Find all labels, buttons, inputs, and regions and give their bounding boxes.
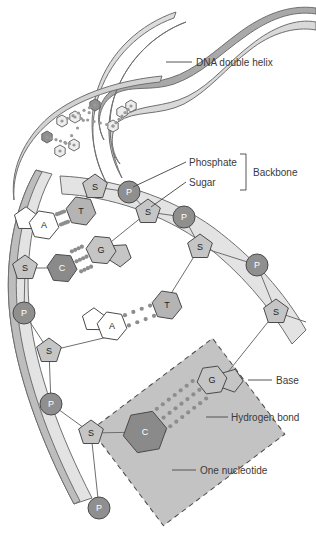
hydrogen-bond-dot	[161, 402, 165, 406]
label-backbone-text: Backbone	[253, 167, 298, 178]
helix-hydrogen-bond-dot	[82, 119, 85, 122]
hydrogen-bond-dot	[174, 420, 178, 424]
hydrogen-bond-dot	[123, 313, 127, 317]
dna-structure-diagram: ATCGATCGC SPSPSPSSPSPSP DNA double helix…	[0, 0, 316, 536]
sugar-unit-label: S	[273, 307, 279, 317]
hydrogen-bond-dot	[185, 384, 189, 388]
helix-hydrogen-bond-dot	[114, 121, 117, 124]
helix-hydrogen-bond-dot	[99, 121, 102, 124]
helix-hydrogen-bond-dot	[66, 117, 69, 120]
sugar-unit-label: S	[197, 242, 203, 252]
helix-hydrogen-bond-dot	[68, 142, 71, 145]
base-label-c: C	[59, 263, 66, 273]
helix-hydrogen-bond-dot	[72, 143, 75, 146]
helix-hydrogen-bond-dot	[117, 118, 120, 121]
helix-hydrogen-bond-dot	[77, 111, 80, 114]
phosphate-unit-label: P	[126, 187, 132, 197]
label-one-nucleotide-text: One nucleotide	[200, 465, 268, 476]
base-label-t: T	[164, 300, 170, 310]
base-g	[86, 236, 131, 267]
helix-hydrogen-bond-dot	[60, 119, 63, 122]
hydrogen-bond-dot	[140, 307, 144, 311]
helix-hydrogen-bond-dot	[88, 106, 91, 109]
hydrogen-bond-dot	[66, 220, 70, 224]
helix-hydrogen-bond-dot	[59, 139, 62, 142]
helix-hydrogen-bond-dot	[50, 137, 53, 140]
hydrogen-bond-dot	[167, 398, 171, 402]
hydrogen-bond-dot	[148, 303, 152, 307]
base-label-g: G	[208, 375, 215, 385]
hydrogen-bond-dot	[173, 393, 177, 397]
base-label-g: G	[97, 245, 104, 255]
backbone-bracket: Backbone	[240, 154, 298, 190]
helix-hydrogen-bond-dot	[54, 138, 57, 141]
phosphate-unit-label: P	[96, 503, 102, 513]
helix-loop-left-inner	[109, 22, 186, 178]
helix-hydrogen-bond-dot	[73, 115, 76, 118]
hydrogen-bond-dot	[179, 402, 183, 406]
hydrogen-bond-dot	[204, 396, 208, 400]
helix-hydrogen-bond-dot	[45, 135, 48, 138]
hydrogen-bond-dot	[185, 397, 189, 401]
hydrogen-bond-dot	[179, 388, 183, 392]
base-a	[82, 308, 126, 340]
base-g	[197, 366, 243, 394]
hydrogen-bond-dot	[180, 415, 184, 419]
sugar-unit-label: S	[145, 207, 151, 217]
helix-ribbon-front	[110, 21, 316, 164]
helix-hydrogen-bond-dot	[64, 142, 67, 145]
label-base-text: Base	[276, 375, 299, 386]
label-dna-double-helix: DNA double helix	[166, 57, 273, 68]
helix-hydrogen-bond-dot	[111, 124, 114, 127]
helix-hydrogen-bond-dot	[105, 123, 108, 126]
hydrogen-bond-dot	[80, 245, 84, 249]
helix-hydrogen-bond-dot	[126, 108, 129, 111]
hydrogen-bond-dot	[191, 392, 195, 396]
hydrogen-bond-dot	[62, 209, 66, 213]
hydrogen-bond-dot	[198, 401, 202, 405]
base-label-a: A	[41, 220, 47, 230]
hydrogen-bond-dot	[84, 255, 88, 259]
hydrogen-bond-dot	[167, 411, 171, 415]
helix-hydrogen-bond-dot	[70, 134, 73, 137]
label-sugar-text: Sugar	[189, 177, 216, 188]
hydrogen-bond-dot	[197, 388, 201, 392]
base-label-a: A	[109, 321, 115, 331]
helix-hydrogen-bond-dot	[120, 114, 123, 117]
hydrogen-bond-dot	[191, 379, 195, 383]
sugar-unit-label: S	[88, 428, 94, 438]
label-base: Base	[248, 375, 299, 386]
phosphate-unit-label: P	[254, 260, 260, 270]
helix-hydrogen-bond-dot	[86, 118, 89, 121]
label-dna-double-helix-text: DNA double helix	[196, 57, 273, 68]
phosphate-unit-label: P	[21, 308, 27, 318]
base-label-t: T	[78, 206, 84, 216]
sugar-unit-label: S	[92, 182, 98, 192]
hydrogen-bond-dot	[89, 265, 93, 269]
helix-hydrogen-bond-dot	[76, 126, 79, 129]
label-phosphate-text: Phosphate	[189, 157, 237, 168]
phosphate-unit-label: P	[181, 212, 187, 222]
hydrogen-bond-dot	[162, 415, 166, 419]
sugar-unit-label: S	[46, 346, 52, 356]
hydrogen-bond-dot	[192, 406, 196, 410]
phosphate-unit-label: P	[48, 399, 54, 409]
helix-hydrogen-bond-dot	[92, 120, 95, 123]
label-hydrogen-bond-text: Hydrogen bond	[231, 412, 299, 423]
hydrogen-bond-dot	[155, 407, 159, 411]
hydrogen-bond-dot	[152, 314, 156, 318]
base-label-c: C	[142, 427, 149, 437]
hydrogen-bond-dot	[168, 424, 172, 428]
hydrogen-bond-dot	[131, 310, 135, 314]
sugar-unit-label: S	[22, 263, 28, 273]
hydrogen-bond-dot	[186, 410, 190, 414]
hydrogen-bond-dot	[173, 406, 177, 410]
hydrogen-bond-dot	[135, 320, 139, 324]
helix-hydrogen-bond-dot	[93, 103, 96, 106]
helix-hydrogen-bond-dot	[82, 109, 85, 112]
helix-hydrogen-bond-dot	[88, 111, 91, 114]
hydrogen-bond-dot	[127, 323, 131, 327]
hydrogen-bond-group	[123, 303, 156, 327]
helix-base-rungs	[42, 99, 136, 157]
helix-hydrogen-bond-dot	[123, 111, 126, 114]
